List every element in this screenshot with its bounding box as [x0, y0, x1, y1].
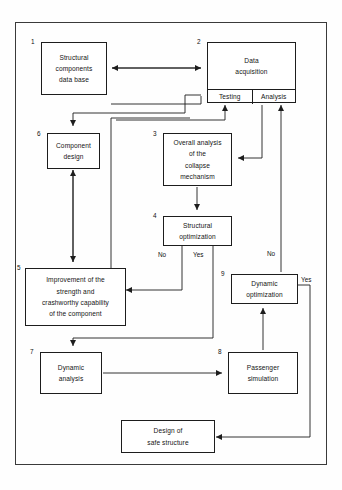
node-2-line-2: acquisition	[235, 66, 267, 77]
node-2-line-1: Data	[244, 55, 258, 66]
subcell-testing[interactable]: Testing	[208, 90, 252, 104]
node-3-line-4: mechanism	[180, 171, 215, 182]
node-number-2: 2	[197, 38, 201, 45]
node-7-line-2: analysis	[59, 373, 84, 384]
edge-label-no-structural: No	[157, 251, 167, 258]
node-9-line-1: Dynamic	[251, 278, 277, 289]
node-4-line-2: optimization	[179, 231, 215, 242]
node-number-4: 4	[153, 212, 157, 219]
node-number-7: 7	[30, 348, 34, 355]
node-number-1: 1	[31, 38, 35, 45]
node-structural-components-data-base[interactable]: Structural components data base	[41, 42, 107, 95]
node-5-line-2: strength and	[57, 286, 95, 297]
node-5-line-3: crashworthy capability	[42, 297, 109, 308]
node-6-line-1: Component	[56, 140, 91, 151]
node-data-acquisition[interactable]: Data acquisition Testing Analysis	[207, 42, 296, 103]
node-component-design[interactable]: Component design	[47, 133, 100, 169]
node-5-line-4: of the component	[49, 308, 102, 319]
edge-label-yes-dynamic: Yes	[300, 276, 312, 283]
node-6-line-2: design	[63, 151, 83, 162]
node-10-line-2: safe structure	[147, 437, 188, 448]
node-number-3: 3	[153, 130, 157, 137]
node-7-line-1: Dynamic	[58, 362, 84, 373]
node-dynamic-optimization[interactable]: Dynamic optimization	[231, 274, 298, 304]
node-passenger-simulation[interactable]: Passenger simulation	[228, 352, 298, 394]
node-3-line-3: collapse	[185, 160, 210, 171]
node-2-subrow: Testing Analysis	[208, 89, 295, 104]
diagram-canvas: 1 Structural components data base 2 Data…	[0, 0, 342, 490]
node-8-line-2: simulation	[248, 373, 279, 384]
node-8-line-1: Passenger	[247, 362, 279, 373]
node-1-line-2: components	[56, 63, 93, 74]
node-1-line-1: Structural	[59, 52, 88, 63]
node-1-line-3: data base	[59, 74, 89, 85]
node-9-line-2: optimization	[246, 289, 282, 300]
node-improvement-strength-crashworthy[interactable]: Improvement of the strength and crashwor…	[25, 268, 126, 326]
node-dynamic-analysis[interactable]: Dynamic analysis	[40, 352, 102, 394]
node-3-line-1: Overall analysis	[173, 137, 221, 148]
node-10-line-1: Design of	[154, 425, 183, 436]
node-number-8: 8	[218, 348, 222, 355]
node-number-5: 5	[17, 264, 21, 271]
subcell-analysis[interactable]: Analysis	[252, 90, 296, 104]
node-3-line-2: of the	[189, 148, 206, 159]
node-5-line-1: Improvement of the	[46, 274, 105, 285]
node-number-6: 6	[37, 130, 41, 137]
node-number-9: 9	[221, 270, 225, 277]
node-structural-optimization[interactable]: Structural optimization	[163, 216, 232, 246]
node-4-line-1: Structural	[183, 220, 212, 231]
edge-label-no-dynamic: No	[266, 250, 276, 257]
node-overall-analysis-collapse-mechanism[interactable]: Overall analysis of the collapse mechani…	[163, 133, 232, 186]
node-design-of-safe-structure[interactable]: Design of safe structure	[121, 420, 215, 453]
edge-label-yes-structural: Yes	[192, 251, 204, 258]
